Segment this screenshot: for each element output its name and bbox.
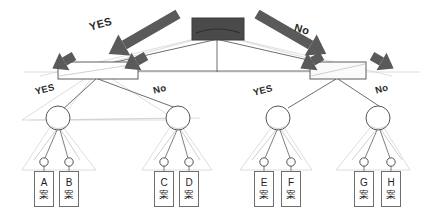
node-right[interactable]: [310, 62, 366, 79]
leaf-kanji-e: 案: [259, 190, 269, 200]
leaf-box-f[interactable]: F 案: [281, 171, 301, 207]
leaf-box-c[interactable]: C 案: [154, 171, 174, 207]
leaf-dots: [40, 158, 395, 166]
leaf-box-b[interactable]: B 案: [59, 171, 79, 207]
leaf-letter-g: G: [360, 178, 368, 189]
leaf-kanji-c: 案: [159, 190, 169, 200]
leaf-letter-h: H: [387, 178, 394, 189]
leaf-kanji-h: 案: [386, 190, 396, 200]
level2-edges: [62, 79, 382, 110]
leaf-dot-b: [65, 158, 73, 166]
arrow-right-outer: [367, 47, 399, 77]
leaf-letter-a: A: [41, 178, 48, 189]
root-node[interactable]: [192, 18, 244, 40]
leaf-dot-h: [387, 158, 395, 166]
leaf-dot-d: [185, 158, 193, 166]
leaf-box-a[interactable]: A 案: [34, 171, 54, 207]
leaf-box-d[interactable]: D 案: [179, 171, 199, 207]
leaf-kanji-b: 案: [64, 190, 74, 200]
leaf-letter-e: E: [261, 178, 268, 189]
leaf-box-g[interactable]: G 案: [354, 171, 374, 207]
leaf-letter-d: D: [185, 178, 192, 189]
leaf-dot-f: [287, 158, 295, 166]
node-left[interactable]: [58, 62, 138, 79]
circle-node-2[interactable]: [166, 106, 190, 130]
leaf-kanji-d: 案: [184, 190, 194, 200]
leaf-letter-b: B: [66, 178, 73, 189]
leaf-dot-a: [40, 158, 48, 166]
leaf-edges: [34, 130, 402, 160]
leaf-dot-e: [260, 158, 268, 166]
leaf-letter-c: C: [160, 178, 167, 189]
leaf-box-h[interactable]: H 案: [381, 171, 401, 207]
leaf-letter-f: F: [288, 178, 294, 189]
leaf-dot-g: [360, 158, 368, 166]
leaf-box-e[interactable]: E 案: [254, 171, 274, 207]
leaf-kanji-f: 案: [286, 190, 296, 200]
diagram-canvas: YES No YES No YES No A 案 B 案 C 案 D 案 E 案…: [0, 0, 434, 216]
circle-node-3[interactable]: [266, 106, 290, 130]
circle-node-1[interactable]: [46, 106, 70, 130]
leaf-kanji-g: 案: [359, 190, 369, 200]
leaf-dot-c: [160, 158, 168, 166]
leaf-kanji-a: 案: [39, 190, 49, 200]
circle-node-4[interactable]: [366, 106, 390, 130]
